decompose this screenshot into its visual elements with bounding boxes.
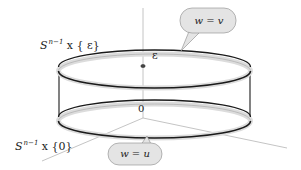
set-symbol: S xyxy=(15,140,23,153)
product-set: x { ε} xyxy=(63,39,99,52)
callout-bottom-text: w = u xyxy=(108,149,162,159)
product-set: x {0} xyxy=(38,140,72,153)
exponent: n−1 xyxy=(49,38,64,46)
epsilon-label: ε xyxy=(152,50,158,61)
epsilon-point xyxy=(141,64,145,67)
top-boundary-label: Sn−1 x { ε} xyxy=(40,39,100,51)
exponent: n−1 xyxy=(24,139,39,147)
bottom-boundary-label: Sn−1 x {0} xyxy=(15,140,73,152)
set-symbol: S xyxy=(40,39,48,52)
bottom-ring xyxy=(59,100,251,138)
callout-top-text: w = v xyxy=(181,16,237,26)
origin-label: 0 xyxy=(138,104,144,114)
